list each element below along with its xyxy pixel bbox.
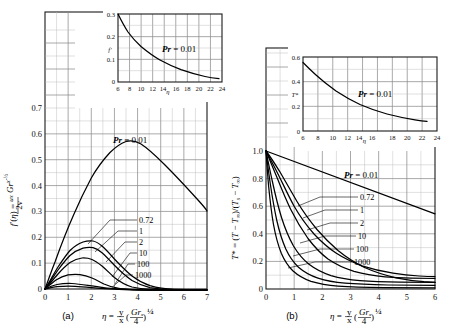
panel-a-upper-grid [45,12,75,108]
panel-b-curve-label-2: 2 [360,219,364,228]
svg-text:0.4: 0.4 [253,230,264,239]
svg-text:18: 18 [389,134,396,141]
svg-text:16: 16 [173,85,180,92]
svg-text:(: ( [126,312,129,322]
panel-b-curve-label-0: 0.72 [360,193,374,202]
svg-text:f′(η) = ux G: f′(η) = ux Grx-½ [3,173,18,226]
svg-text:0.7: 0.7 [32,104,42,113]
panel-a-curve-label-3: 10 [139,249,147,258]
svg-text:12: 12 [149,85,156,92]
panel-b-inset: Pr = 0.01 0.6 0.4 0.2 0 T* 6 8 10 12 14 … [288,47,441,147]
panel-a-inset-xlabel: η [166,88,169,95]
panel-b-ylabel: T* = (T − T∞)/(Ts − T∞) [230,176,241,260]
panel-a-ylabel: f′(η) = ux Grx-½ 2ν [3,173,24,226]
panel-a-xlabel: η = y x ( Grx 4 ) ¼ [102,306,154,326]
svg-text:7: 7 [205,293,209,302]
panel-a-letter: (a) [62,310,74,321]
svg-text:22: 22 [207,85,214,92]
svg-text:5: 5 [159,293,163,302]
svg-text:5: 5 [405,293,409,302]
svg-text:0: 0 [259,285,263,294]
svg-text:η =: η = [330,311,342,321]
panel-b-letter: (b) [286,310,298,321]
figure-svg: Pr = 0.01 0.72 1 2 10 100 1000 0 1 2 3 4… [0,0,449,334]
svg-text:10: 10 [329,134,336,141]
svg-text:0.8: 0.8 [253,175,263,184]
panel-a-curve-label-5: 1000 [135,271,151,280]
svg-text:18: 18 [184,85,191,92]
panel-a-xticks: 0 1 2 3 4 5 6 7 [43,293,209,302]
svg-text:0.6: 0.6 [292,54,301,61]
panel-a-yticks: 0 0.1 0.2 0.3 0.4 0.5 0.6 0.7 [32,104,43,294]
svg-text:0.2: 0.2 [292,103,300,110]
svg-text:2: 2 [320,293,324,302]
svg-text:4: 4 [135,293,140,302]
panel-b-yticks: 0 0.2 0.4 0.6 0.8 1.0 [253,147,264,294]
panel-b-xlabel: η = y x ( Grx 4 ) ¼ [330,306,382,326]
figure-root: Pr = 0.01 0.72 1 2 10 100 1000 0 1 2 3 4… [0,0,449,334]
panel-b-curve-label-4: 100 [356,245,368,254]
svg-text:0.2: 0.2 [107,33,115,40]
svg-text:0.6: 0.6 [32,130,42,139]
svg-text:0: 0 [38,285,42,294]
panel-b-pr-label: Pr = 0.01 [344,170,378,180]
svg-text:1: 1 [292,293,296,302]
svg-text:1: 1 [66,293,70,302]
svg-text:24: 24 [219,85,226,92]
svg-text:0.4: 0.4 [32,182,43,191]
panel-a-inset: Pr = 0.01 0.3 0.2 0.1 0 f′ 6 8 10 12 14 … [103,4,227,102]
svg-text:10: 10 [138,85,145,92]
svg-text:η =: η = [102,311,114,321]
svg-text:3: 3 [112,293,116,302]
svg-text:1.0: 1.0 [253,147,263,156]
svg-text:6: 6 [182,293,186,302]
svg-text:0.2: 0.2 [32,233,42,242]
svg-text:0.6: 0.6 [253,202,263,211]
svg-text:): ) [371,312,374,322]
svg-text:0.1: 0.1 [107,56,115,63]
panel-b-inset-pr-label: Pr = 0.01 [358,89,392,99]
svg-text:4: 4 [377,293,382,302]
panel-a-curve-label-1: 1 [139,227,143,236]
svg-text:20: 20 [404,134,411,141]
panel-b-xticks: 0 1 2 3 4 5 6 [264,293,437,302]
svg-text:20: 20 [196,85,203,92]
panel-a-inset-ylabel: f′ [108,46,112,53]
panel-a-curve-label-4: 100 [137,260,149,269]
panel-a-pr-label: Pr = 0.01 [113,135,147,145]
svg-text:0.3: 0.3 [32,207,42,216]
panel-b-curve-label-3: 10 [358,232,366,241]
svg-text:2: 2 [89,293,93,302]
panel-a-curve-label-2: 2 [139,238,143,247]
panel-a: Pr = 0.01 0.72 1 2 10 100 1000 0 1 2 3 4… [3,4,227,326]
panel-b-curve-label-5: 1000 [354,258,370,267]
svg-text:0.2: 0.2 [253,257,263,266]
svg-text:3: 3 [348,293,352,302]
svg-text:0.3: 0.3 [107,11,116,18]
svg-text:0: 0 [43,293,47,302]
svg-text:22: 22 [419,134,426,141]
svg-text:0: 0 [264,293,268,302]
svg-text:0.1: 0.1 [32,259,42,268]
svg-text:24: 24 [434,134,441,141]
panel-a-inset-pr-label: Pr = 0.01 [162,44,196,54]
svg-text:): ) [143,312,146,322]
svg-text:(: ( [354,312,357,322]
panel-a-leaders [88,220,137,287]
panel-b-inset-ylabel: T* [292,91,299,98]
panel-b-inset-xlabel: η [363,137,366,144]
panel-b: Pr = 0.01 0.72 1 2 10 100 1000 0 1 2 3 4… [230,47,441,326]
svg-text:0.5: 0.5 [32,156,42,165]
svg-text:6: 6 [433,293,437,302]
panel-a-curve-label-0: 0.72 [139,216,153,225]
svg-text:¼: ¼ [147,306,154,316]
svg-text:12: 12 [344,134,351,141]
svg-text:16: 16 [369,134,376,141]
svg-text:2ν: 2ν [14,201,24,210]
svg-text:T* = (T − T∞)/(Ts − T∞): T* = (T − T∞)/(Ts − T∞) [230,176,241,260]
panel-b-curve-label-1: 1 [360,206,364,215]
svg-text:¼: ¼ [375,306,382,316]
svg-text:0.4: 0.4 [292,78,301,85]
